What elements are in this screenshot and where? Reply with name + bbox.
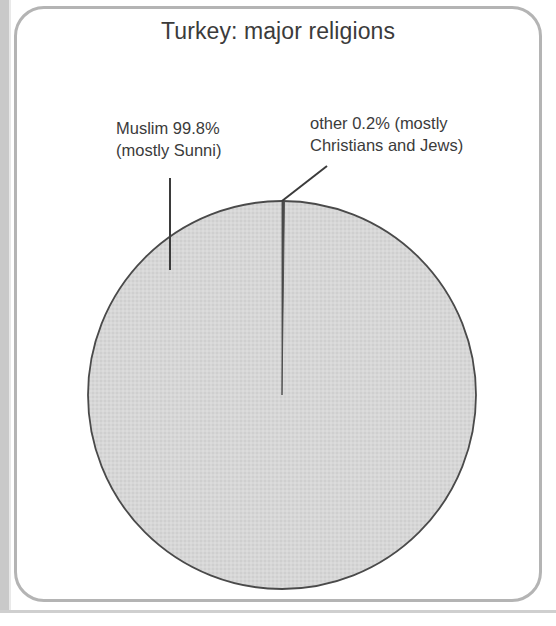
pie-chart-graphic: [0, 0, 556, 626]
leader-line-other: [282, 166, 327, 201]
pie-chart-figure: Turkey: major religions Muslim 99.8% (mo…: [0, 0, 556, 626]
